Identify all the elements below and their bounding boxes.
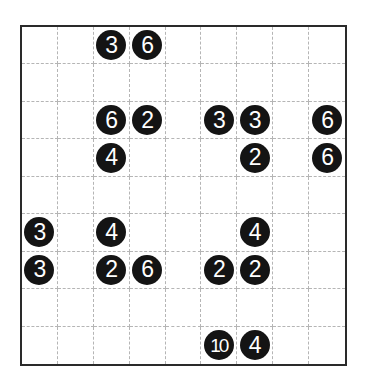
- number-clue-circle: 4: [240, 330, 270, 360]
- grid-cell[interactable]: 6: [309, 139, 345, 176]
- grid-cell[interactable]: [273, 139, 309, 176]
- grid-cell[interactable]: [58, 64, 94, 101]
- grid-cell[interactable]: [166, 214, 202, 251]
- number-clue-circle: 4: [96, 143, 126, 173]
- grid-cell[interactable]: [166, 177, 202, 214]
- grid-cell[interactable]: [166, 27, 202, 64]
- grid-cell[interactable]: [273, 327, 309, 364]
- grid-cell[interactable]: [237, 177, 273, 214]
- grid-cell[interactable]: [22, 289, 58, 326]
- number-clue-circle: 6: [132, 30, 162, 60]
- grid-cell[interactable]: [166, 139, 202, 176]
- grid-cell[interactable]: [237, 289, 273, 326]
- grid-cell[interactable]: 2: [94, 252, 130, 289]
- number-clue-circle: 6: [96, 105, 126, 135]
- grid-cell[interactable]: [58, 177, 94, 214]
- grid-cell[interactable]: [22, 102, 58, 139]
- grid-cell[interactable]: [58, 252, 94, 289]
- grid-cell[interactable]: [309, 327, 345, 364]
- grid-cell[interactable]: [94, 327, 130, 364]
- number-clue-circle: 4: [240, 217, 270, 247]
- grid-cell[interactable]: [22, 27, 58, 64]
- grid-cell[interactable]: [22, 64, 58, 101]
- grid-cell[interactable]: [166, 252, 202, 289]
- grid-cell[interactable]: [166, 64, 202, 101]
- number-clue-circle: 6: [312, 143, 342, 173]
- number-clue-circle: 3: [96, 30, 126, 60]
- grid-cell[interactable]: [201, 289, 237, 326]
- grid-cell[interactable]: 6: [94, 102, 130, 139]
- grid-cell[interactable]: [130, 327, 166, 364]
- grid-cell[interactable]: [201, 64, 237, 101]
- grid-cell[interactable]: [201, 139, 237, 176]
- grid-cell[interactable]: 2: [130, 102, 166, 139]
- number-clue-circle: 2: [96, 255, 126, 285]
- grid-cell[interactable]: 2: [237, 139, 273, 176]
- number-clue-circle: 3: [204, 105, 234, 135]
- grid-cell[interactable]: [166, 327, 202, 364]
- grid-cell[interactable]: [201, 177, 237, 214]
- grid-cell[interactable]: [58, 327, 94, 364]
- grid-cell[interactable]: [58, 289, 94, 326]
- grid-cell[interactable]: 3: [237, 102, 273, 139]
- grid-cell[interactable]: 4: [237, 327, 273, 364]
- grid-cell[interactable]: [273, 177, 309, 214]
- puzzle-board: 366233642634432622104: [20, 25, 347, 366]
- grid-cell[interactable]: 4: [237, 214, 273, 251]
- grid-cell[interactable]: 3: [22, 214, 58, 251]
- grid-cell[interactable]: [130, 289, 166, 326]
- grid-cell[interactable]: [201, 214, 237, 251]
- grid-cell[interactable]: 2: [201, 252, 237, 289]
- grid-cell[interactable]: [273, 289, 309, 326]
- number-clue-circle: 2: [240, 255, 270, 285]
- grid-cell[interactable]: [94, 289, 130, 326]
- grid-cell[interactable]: 3: [94, 27, 130, 64]
- grid-cell[interactable]: [22, 177, 58, 214]
- number-clue-circle: 3: [240, 105, 270, 135]
- grid-cell[interactable]: 6: [309, 102, 345, 139]
- grid-cell[interactable]: [58, 214, 94, 251]
- grid-cell[interactable]: [94, 64, 130, 101]
- grid-cell[interactable]: [309, 252, 345, 289]
- grid-cell[interactable]: [309, 289, 345, 326]
- number-clue-circle: 10: [204, 330, 234, 360]
- grid-cell[interactable]: [273, 102, 309, 139]
- grid-cell[interactable]: [309, 214, 345, 251]
- grid-cell[interactable]: [273, 64, 309, 101]
- grid-cell[interactable]: [130, 214, 166, 251]
- number-clue-circle: 2: [132, 105, 162, 135]
- grid-cell[interactable]: [309, 27, 345, 64]
- grid-cell[interactable]: [22, 327, 58, 364]
- grid-cell[interactable]: [309, 64, 345, 101]
- number-clue-circle: 4: [96, 217, 126, 247]
- grid-cell[interactable]: 6: [130, 252, 166, 289]
- number-clue-circle: 6: [312, 105, 342, 135]
- grid-cell[interactable]: 3: [201, 102, 237, 139]
- grid-cell[interactable]: 4: [94, 139, 130, 176]
- grid-cell[interactable]: 6: [130, 27, 166, 64]
- grid-cell[interactable]: [58, 102, 94, 139]
- grid-cell[interactable]: [166, 102, 202, 139]
- grid-cell[interactable]: [237, 27, 273, 64]
- grid-cell[interactable]: 4: [94, 214, 130, 251]
- grid-cell[interactable]: 3: [22, 252, 58, 289]
- grid-cell[interactable]: 10: [201, 327, 237, 364]
- grid-cell[interactable]: [237, 64, 273, 101]
- number-clue-circle: 3: [24, 217, 54, 247]
- grid-cell[interactable]: [201, 27, 237, 64]
- grid-cell[interactable]: [273, 27, 309, 64]
- grid-cell[interactable]: [166, 289, 202, 326]
- grid-cell[interactable]: [273, 252, 309, 289]
- grid-cell[interactable]: [130, 64, 166, 101]
- grid-cell[interactable]: [273, 214, 309, 251]
- grid-cell[interactable]: [130, 177, 166, 214]
- grid-cell[interactable]: [22, 139, 58, 176]
- grid-cell[interactable]: [58, 27, 94, 64]
- grid-cell[interactable]: 2: [237, 252, 273, 289]
- grid-cell[interactable]: [94, 177, 130, 214]
- grid-cell[interactable]: [130, 139, 166, 176]
- grid-cell[interactable]: [309, 177, 345, 214]
- number-clue-circle: 2: [204, 255, 234, 285]
- grid-cell[interactable]: [58, 139, 94, 176]
- puzzle-grid: 366233642634432622104: [22, 27, 345, 364]
